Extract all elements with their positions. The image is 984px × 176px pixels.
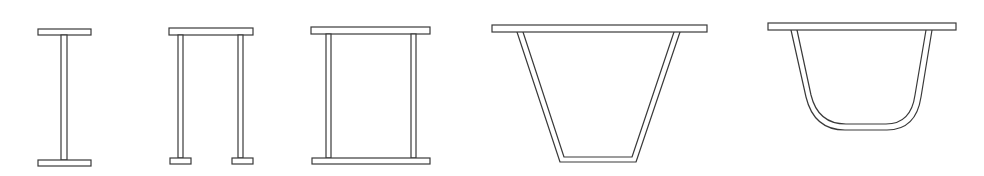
- web: [61, 35, 67, 160]
- top-flange: [169, 28, 253, 35]
- outer-web-line: [791, 30, 932, 130]
- top-flange: [38, 29, 91, 35]
- right-bottom-pad: [232, 158, 253, 164]
- box-section: [311, 27, 430, 164]
- girder-sections-diagram: [0, 0, 984, 176]
- top-flange: [311, 27, 430, 34]
- trapezoidal-section: [492, 25, 707, 162]
- inner-web-line: [523, 32, 674, 157]
- u-section: [768, 23, 956, 130]
- right-web: [238, 35, 243, 158]
- left-web: [178, 35, 183, 158]
- right-web: [411, 34, 416, 158]
- top-flange: [768, 23, 956, 30]
- bottom-flange: [312, 158, 430, 164]
- left-bottom-pad: [170, 158, 191, 164]
- left-web: [326, 34, 331, 158]
- pi-section: [169, 28, 253, 164]
- top-flange: [492, 25, 707, 32]
- outer-web-line: [517, 32, 680, 162]
- bottom-flange: [38, 160, 91, 166]
- inner-web-line: [797, 30, 926, 124]
- i-beam-section: [38, 29, 91, 166]
